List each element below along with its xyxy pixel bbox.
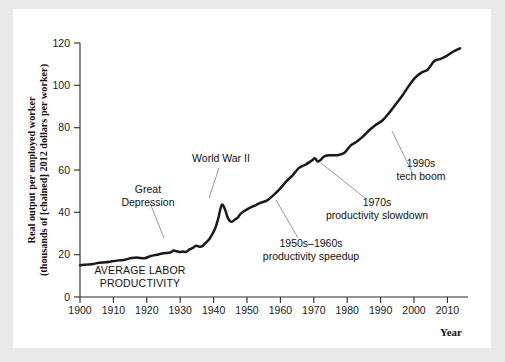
figure-page: Real output per employed worker (thousan… (0, 0, 505, 362)
series-average-labor-productivity (80, 48, 460, 265)
x-ticklabel-1920: 1920 (135, 304, 159, 316)
leader-line-productivity-slowdown (321, 163, 365, 198)
x-ticklabel-1980: 1980 (336, 304, 360, 316)
annotation-average-labor-productivity: AVERAGE LABOR PRODUCTIVITY (94, 264, 185, 289)
series-label-line1: AVERAGE LABOR (94, 264, 185, 276)
y-axis-ticks: 0 20 40 60 80 100 120 (52, 37, 80, 303)
series-label-line2: PRODUCTIVITY (100, 277, 181, 289)
x-ticklabel-2010: 2010 (436, 304, 460, 316)
productivity-line-chart: Real output per employed worker (thousan… (0, 0, 505, 362)
y-ticklabel-20: 20 (58, 248, 70, 260)
x-ticklabel-1900: 1900 (68, 304, 92, 316)
x-ticklabel-1990: 1990 (369, 304, 393, 316)
annotation-great-depression: Great Depression (121, 183, 174, 208)
y-ticklabel-100: 100 (52, 79, 70, 91)
x-ticklabel-1950: 1950 (235, 304, 259, 316)
annotation-productivity-slowdown-line2: productivity slowdown (326, 209, 428, 221)
y-ticklabel-0: 0 (64, 291, 70, 303)
annotation-productivity-speedup-line2: productivity speedup (263, 250, 359, 262)
annotation-leader-lines (150, 131, 412, 238)
leader-line-productivity-speedup (276, 200, 298, 238)
annotation-great-depression-line1: Great (135, 183, 161, 195)
x-ticklabel-1960: 1960 (269, 304, 293, 316)
y-axis-title: Real output per employed worker (thousan… (26, 64, 50, 276)
leader-line-great-depression (150, 203, 164, 238)
y-ticklabel-120: 120 (52, 37, 70, 49)
annotation-productivity-speedup: 1950s–1960s productivity speedup (263, 237, 359, 262)
x-ticklabel-1970: 1970 (302, 304, 326, 316)
annotation-world-war-2: World War II (192, 152, 250, 164)
y-ticklabel-60: 60 (58, 164, 70, 176)
annotation-productivity-slowdown-line1: 1970s (363, 196, 392, 208)
x-ticklabel-1940: 1940 (202, 304, 226, 316)
annotation-tech-boom-line2: tech boom (396, 170, 445, 182)
x-ticklabel-2000: 2000 (402, 304, 426, 316)
y-axis-title-line1: Real output per employed worker (26, 96, 37, 243)
x-axis-title: Year (440, 326, 462, 338)
y-axis-title-line2: (thousands of [chained] 2012 dollars per… (38, 64, 50, 276)
annotation-tech-boom-line1: 1990s (407, 157, 436, 169)
y-ticklabel-80: 80 (58, 121, 70, 133)
annotation-world-war-2-line1: World War II (192, 152, 250, 164)
annotation-productivity-slowdown: 1970s productivity slowdown (326, 196, 428, 221)
x-ticklabel-1910: 1910 (102, 304, 126, 316)
x-ticklabel-1930: 1930 (169, 304, 193, 316)
annotation-productivity-speedup-line1: 1950s–1960s (279, 237, 342, 249)
y-ticklabel-40: 40 (58, 206, 70, 218)
annotation-tech-boom: 1990s tech boom (396, 157, 445, 182)
annotation-great-depression-line2: Depression (121, 196, 174, 208)
leader-line-world-war-2 (209, 168, 219, 198)
x-axis-ticks: 1900 1910 1920 1930 1940 1950 1960 1970 … (68, 297, 459, 316)
